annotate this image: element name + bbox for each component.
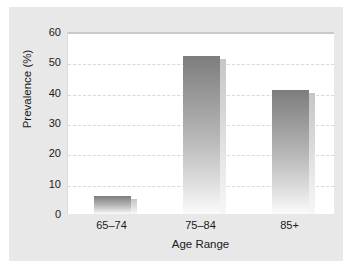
bar-chart-figure: 0102030405060 Prevalence (%) 65–7475–848… <box>0 0 352 271</box>
y-axis-title: Prevalence (%) <box>21 19 33 159</box>
plot-inner <box>68 34 334 214</box>
bar <box>272 90 309 214</box>
bar-shadow <box>131 199 137 214</box>
x-axis-tick-labels: 65–7475–8485+ <box>67 219 334 235</box>
figure-canvas: 0102030405060 Prevalence (%) 65–7475–848… <box>9 7 343 261</box>
bar <box>94 196 131 214</box>
y-tick-label: 10 <box>17 178 61 189</box>
plot-area <box>67 32 334 214</box>
bar-shadow <box>309 93 315 214</box>
y-axis-tick-labels: 0102030405060 <box>9 32 61 214</box>
x-tick-label: 75–84 <box>161 219 241 232</box>
x-tick-label: 85+ <box>250 219 330 232</box>
bar <box>183 56 220 214</box>
x-axis-title: Age Range <box>67 238 334 250</box>
y-tick-label: 0 <box>17 209 61 220</box>
x-tick-label: 65–74 <box>72 219 152 232</box>
bar-shadow <box>220 59 226 214</box>
